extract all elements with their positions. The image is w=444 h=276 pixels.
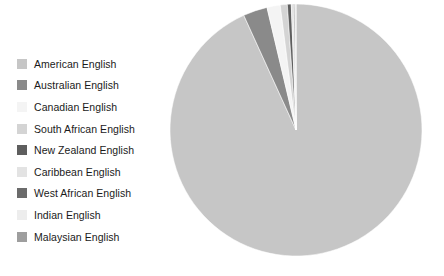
legend-color-swatch <box>17 102 27 112</box>
legend-item-label: Malaysian English <box>34 231 119 243</box>
legend-item[interactable]: Indian English <box>17 204 167 226</box>
pie-chart-svg <box>169 3 423 257</box>
pie-chart <box>169 3 423 257</box>
legend-item-label: Canadian English <box>34 101 117 113</box>
legend-item-label: West African English <box>34 187 131 199</box>
legend-item[interactable]: New Zealand English <box>17 139 167 161</box>
pie-chart-figure: American EnglishAustralian EnglishCanadi… <box>0 0 444 276</box>
legend-item[interactable]: Australian English <box>17 75 167 97</box>
pie-slice-group <box>170 4 422 256</box>
legend-color-swatch <box>17 124 27 134</box>
legend-item-label: South African English <box>34 123 135 135</box>
legend-color-swatch <box>17 59 27 69</box>
legend-item[interactable]: Caribbean English <box>17 161 167 183</box>
legend-item-label: American English <box>34 58 117 70</box>
legend-color-swatch <box>17 167 27 177</box>
legend-item[interactable]: American English <box>17 53 167 75</box>
legend-item-label: Australian English <box>34 79 119 91</box>
legend-item[interactable]: Malaysian English <box>17 226 167 248</box>
legend-color-swatch <box>17 232 27 242</box>
legend-item-label: Indian English <box>34 209 101 221</box>
legend-color-swatch <box>17 188 27 198</box>
legend-item[interactable]: West African English <box>17 183 167 205</box>
chart-legend: American EnglishAustralian EnglishCanadi… <box>17 53 167 247</box>
legend-item[interactable]: Canadian English <box>17 96 167 118</box>
legend-color-swatch <box>17 80 27 90</box>
legend-item-label: New Zealand English <box>34 144 134 156</box>
legend-color-swatch <box>17 210 27 220</box>
legend-item-label: Caribbean English <box>34 166 121 178</box>
legend-color-swatch <box>17 145 27 155</box>
legend-item[interactable]: South African English <box>17 118 167 140</box>
